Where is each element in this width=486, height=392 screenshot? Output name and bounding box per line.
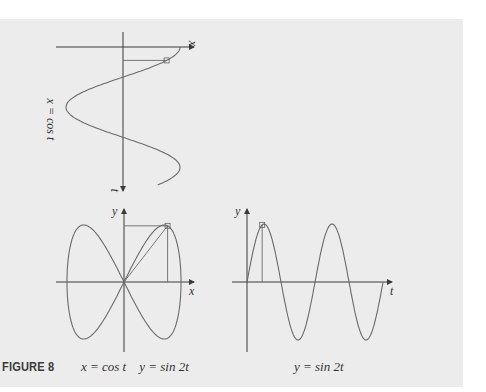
br-y-axis-label: y (235, 204, 240, 219)
lissajous-graph (56, 209, 194, 352)
top-graph (56, 32, 194, 191)
bl-y-axis-label: y (112, 204, 117, 219)
br-t-axis-label: t (390, 284, 393, 299)
bl-x-axis-label: x (189, 284, 194, 299)
sine-graph (232, 209, 392, 352)
bl-marker-ray (124, 226, 168, 282)
figure-plots (0, 0, 486, 392)
caption-parametric: x = cos t y = sin 2t (81, 359, 189, 375)
top-graph-label: x = cos t (43, 90, 58, 150)
caption-sine: y = sin 2t (294, 359, 344, 375)
figure-number: FIGURE 8 (2, 359, 54, 374)
top-t-axis-label: t (107, 189, 122, 192)
top-x-axis-label: x (185, 41, 200, 46)
